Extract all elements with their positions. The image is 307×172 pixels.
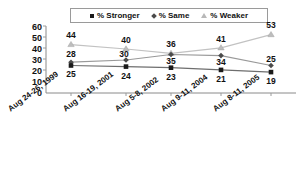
stronger-marker-1: [124, 64, 129, 69]
weaker-marker-0: [68, 41, 74, 46]
value-label-stronger-4: 19: [261, 77, 281, 86]
stronger-marker-3: [219, 68, 224, 73]
value-label-weaker-2: 36: [161, 40, 181, 49]
value-label-same-3: 34: [211, 58, 231, 67]
value-label-same-2: 35: [161, 57, 181, 66]
value-label-weaker-1: 40: [116, 36, 136, 45]
value-label-same-4: 25: [261, 55, 281, 64]
stronger-marker-2: [169, 65, 174, 70]
line-chart: % Stronger % Same % Weaker 60 50 40 30 2…: [0, 0, 307, 172]
stronger-marker-4: [269, 70, 274, 75]
value-label-stronger-0: 25: [61, 70, 81, 79]
weaker-marker-4: [268, 32, 274, 37]
value-label-stronger-3: 21: [211, 75, 231, 84]
value-label-stronger-1: 24: [116, 72, 136, 81]
value-label-weaker-4: 53: [261, 21, 281, 30]
value-label-weaker-3: 41: [211, 35, 231, 44]
value-label-same-0: 28: [61, 50, 81, 59]
value-label-stronger-2: 23: [161, 73, 181, 82]
value-label-weaker-0: 44: [61, 31, 81, 40]
value-label-same-1: 30: [114, 50, 134, 59]
stronger-marker-0: [69, 63, 74, 68]
